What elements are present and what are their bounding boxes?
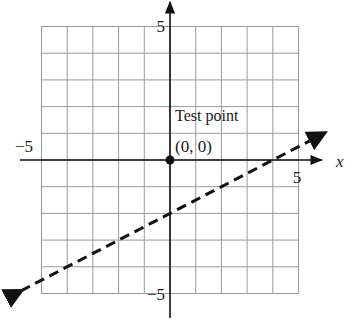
y-tick-label-5: 5 bbox=[157, 17, 166, 36]
x-axis-label: x bbox=[335, 152, 344, 171]
coordinate-plane: −5 5 5 −5 x Test point (0, 0) bbox=[0, 0, 356, 333]
test-point-coordinates: (0, 0) bbox=[175, 137, 212, 156]
y-tick-label-neg5: −5 bbox=[147, 285, 165, 304]
x-tick-label-neg5: −5 bbox=[15, 137, 33, 156]
x-tick-label-5: 5 bbox=[293, 168, 302, 187]
test-point-label: Test point bbox=[175, 107, 239, 125]
test-point bbox=[166, 156, 175, 165]
